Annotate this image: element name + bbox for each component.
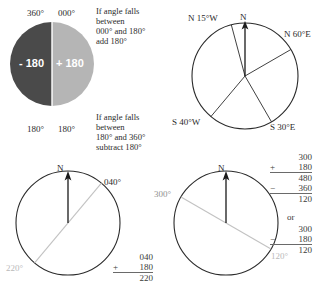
label-180-left: 180°	[27, 124, 44, 134]
calc-a-line-1: 300	[270, 152, 312, 162]
label-back-bearing-220: 220°	[6, 263, 23, 273]
panel-bearing-040: N 040° 220° 040 + 180 220	[0, 150, 170, 289]
calc-operator: +	[113, 262, 118, 272]
plus-180-text: + 180	[56, 57, 84, 69]
calc-a-subtotal: 480	[270, 172, 312, 183]
calc-040-plus-180: 040 + 180 220	[113, 252, 153, 283]
label-bearing-040: 040°	[104, 177, 121, 187]
label-north: N	[240, 12, 247, 22]
calc-a-operator-2: −	[270, 183, 275, 193]
panel-quadrant-bearings: N 15°W N N 60°E S 30°E S 40°W	[170, 0, 320, 150]
label-north-300: N	[218, 163, 225, 173]
calc-a-line-2: 180	[299, 162, 313, 172]
calc-300-plus-180-minus-360: 300 + 180 480 − 360 120	[270, 152, 312, 204]
calc-line-2: 180	[140, 262, 154, 272]
calc-a-line-3: 360	[299, 183, 313, 193]
calc-b-line-2: 180	[299, 234, 313, 244]
minus-180-text: - 180	[19, 57, 44, 69]
calc-300-minus-180: 300 − 180 120	[270, 224, 312, 255]
label-bearing-300: 300°	[154, 189, 171, 199]
panel-half-circle-rule: 360° 000° - 180 + 180 180° 180° If angle…	[0, 0, 170, 150]
label-s30e: S 30°E	[270, 122, 295, 132]
calc-a-operator-1: +	[270, 162, 275, 172]
panel-bearing-300: N 300° 120° 300 + 180 480 − 360 120 or 3…	[160, 150, 320, 289]
label-s40w: S 40°W	[172, 117, 200, 127]
note-subtract-180: If angle falls between 180° and 360° sub…	[96, 112, 170, 153]
calc-connector-or: or	[287, 212, 295, 222]
label-360: 360°	[27, 8, 44, 18]
calc-a-result: 120	[270, 193, 312, 204]
note-add-180: If angle falls between 000° and 180° add…	[96, 6, 168, 47]
label-north-040: N	[57, 163, 64, 173]
calc-result: 220	[113, 272, 153, 283]
label-180-right: 180°	[58, 124, 75, 134]
calc-b-result: 120	[270, 244, 312, 255]
calc-line-1: 040	[113, 252, 153, 262]
label-n60e: N 60°E	[284, 29, 311, 39]
calc-b-line-1: 300	[270, 224, 312, 234]
label-n15w: N 15°W	[188, 13, 218, 23]
label-000: 000°	[58, 8, 75, 18]
calc-b-operator: −	[270, 234, 275, 244]
